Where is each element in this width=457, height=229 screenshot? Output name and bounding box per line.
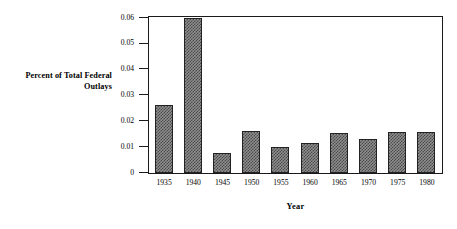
- y-axis-tick-5: [139, 43, 148, 44]
- x-axis-tick-label-1980: 1980: [407, 178, 447, 187]
- y-axis-title: Percent of Total Federal Outlays: [8, 70, 112, 92]
- y-axis-tick-label-text: 0.04: [82, 65, 134, 73]
- y-axis-tick-1: [139, 146, 148, 147]
- y-axis-tick-label-4: 0.04: [82, 65, 134, 73]
- y-axis-tick-6: [139, 17, 148, 18]
- y-axis-tick-label-text: 0.03: [82, 91, 134, 99]
- y-axis-tick-label-6: 0.06: [82, 14, 134, 22]
- y-axis-tick-label-1: 0.01: [82, 143, 134, 151]
- y-axis-tick-2: [139, 120, 148, 121]
- bar-1970: [359, 139, 377, 173]
- y-axis-tick-label-text: 0.01: [82, 143, 134, 151]
- y-axis-tick-0: [139, 172, 148, 173]
- y-axis-tick-label-3: 0.03: [82, 91, 134, 99]
- bar-1950: [242, 131, 260, 173]
- y-axis-tick-label-2: 0.02: [82, 117, 134, 125]
- y-axis-tick-label-text: 0.06: [82, 14, 134, 22]
- bar-1955: [271, 147, 289, 173]
- y-axis-tick-label-text: 0.02: [82, 117, 134, 125]
- chart-figure: Percent of Total Federal Outlays 00.010.…: [0, 0, 457, 229]
- y-axis-tick-label-5: 0.05: [82, 39, 134, 47]
- y-axis-tick-label-text: 0.05: [82, 39, 134, 47]
- y-axis-tick-label-text: 0: [82, 169, 134, 177]
- bar-1945: [213, 153, 231, 173]
- y-axis-title-line-2: Outlays: [84, 82, 112, 91]
- bar-series: [149, 17, 442, 173]
- bar-1960: [301, 143, 319, 173]
- bar-1980: [417, 132, 435, 173]
- y-axis-tick-3: [139, 94, 148, 95]
- bar-1975: [388, 132, 406, 173]
- bar-1940: [184, 18, 202, 173]
- y-axis-tick-4: [139, 68, 148, 69]
- bar-1965: [330, 133, 348, 173]
- plot-area: [148, 16, 443, 174]
- x-axis-title: Year: [148, 202, 443, 211]
- y-axis-tick-label-0: 0: [82, 169, 134, 177]
- bar-1935: [155, 105, 173, 173]
